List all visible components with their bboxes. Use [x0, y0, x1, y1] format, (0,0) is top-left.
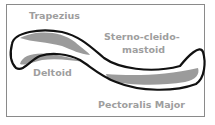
label-trapezius: Trapezius: [29, 11, 80, 21]
label-sternocleidomastoid-line1: Sterno-cleido-: [104, 32, 180, 42]
label-sternocleidomastoid-line2: mastoid: [122, 45, 165, 55]
label-pectoralis-major: Pectoralis Major: [98, 100, 185, 110]
trapezius-band: [20, 32, 90, 55]
label-deltoid: Deltoid: [33, 68, 72, 78]
